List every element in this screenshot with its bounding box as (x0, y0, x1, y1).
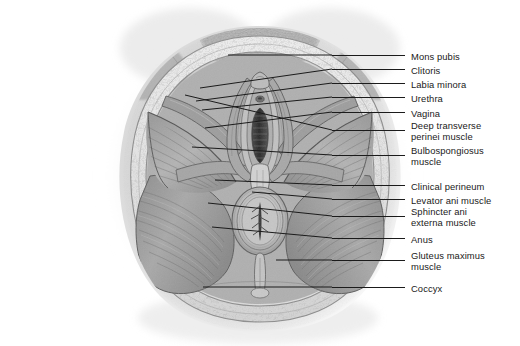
label-levator-ani-muscle: Levator ani muscle (411, 195, 491, 206)
label-line-2: muscle (411, 261, 441, 272)
label-line-1: Levator ani muscle (411, 195, 491, 206)
label-deep-transverse-perinei-muscle: Deep transverseperinei muscle (411, 120, 481, 143)
label-line-2: externa muscle (411, 217, 476, 228)
label-line-1: Vagina (411, 108, 440, 119)
label-line-2: perinei muscle (411, 131, 473, 142)
label-line-1: Anus (411, 234, 433, 245)
label-line-1: Clitoris (411, 65, 440, 76)
label-coccyx: Coccyx (411, 283, 442, 294)
label-line-1: Urethra (411, 93, 443, 104)
label-bulbospongiosus-muscle: Bulbospongiosusmuscle (411, 145, 484, 168)
label-sphincter-ani-externa-muscle: Sphincter aniexterna muscle (411, 206, 476, 229)
label-anus: Anus (411, 234, 433, 245)
label-clinical-perineum: Clinical perineum (411, 181, 485, 192)
label-gluteus-maximus-muscle: Gluteus maximusmuscle (411, 250, 485, 273)
label-clitoris: Clitoris (411, 65, 440, 76)
label-mons-pubis: Mons pubis (411, 51, 460, 62)
label-line-1: Clinical perineum (411, 181, 485, 192)
label-line-1: Coccyx (411, 283, 442, 294)
label-urethra: Urethra (411, 93, 443, 104)
label-line-1: Gluteus maximus (411, 250, 485, 261)
label-line-1: Sphincter ani (411, 206, 467, 217)
label-line-2: muscle (411, 156, 441, 167)
label-line-1: Mons pubis (411, 51, 460, 62)
label-line-1: Labia minora (411, 79, 466, 90)
label-line-1: Deep transverse (411, 120, 481, 131)
label-line-1: Bulbospongiosus (411, 145, 484, 156)
label-labia-minora: Labia minora (411, 79, 466, 90)
label-vagina: Vagina (411, 108, 440, 119)
